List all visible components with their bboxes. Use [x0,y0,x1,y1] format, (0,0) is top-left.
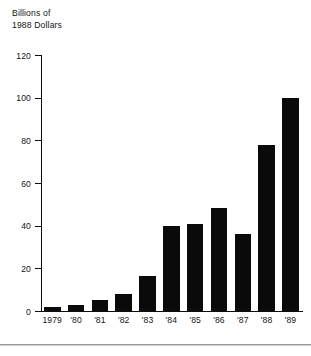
y-axis-title: Billions of 1988 Dollars [12,8,62,31]
footer-divider-shadow [0,345,311,346]
bar [211,208,228,311]
y-tick-label: 20 [21,264,31,274]
bar [163,226,180,311]
y-tick-label: 80 [21,136,31,146]
bar [115,294,132,311]
bar [282,98,299,311]
y-tick-label: 40 [21,221,31,231]
bar [44,307,61,311]
y-axis-title-line-2: 1988 Dollars [12,20,62,32]
plot-area [41,55,303,311]
y-tick-label: 0 [26,307,31,317]
x-tick-label: '89 [276,315,304,325]
bar [235,234,252,311]
y-tick-label: 100 [16,93,31,103]
bar [139,276,156,311]
bar [68,305,85,311]
y-tick-label: 120 [16,51,31,61]
y-tick-label: 60 [21,179,31,189]
y-axis-title-line-1: Billions of [12,8,62,20]
y-tick-mark: 0 [35,311,41,312]
bar-chart-figure: Billions of 1988 Dollars 020406080100120… [0,0,311,356]
bar [92,300,109,311]
bar [187,224,204,311]
bar [258,145,275,311]
x-axis-line [41,311,303,312]
